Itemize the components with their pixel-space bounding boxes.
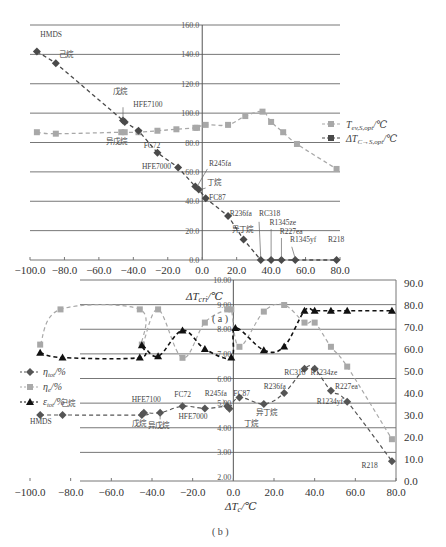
x-tick-label: −80.0 xyxy=(58,486,84,498)
diamond-marker-icon xyxy=(52,59,60,67)
x-axis-title-b: ΔTc/℃ xyxy=(224,500,257,514)
square-marker-icon xyxy=(27,384,33,390)
square-marker-icon xyxy=(194,125,200,131)
point-label: R236fa xyxy=(264,382,287,391)
point-label: R236fa xyxy=(230,209,253,218)
point-label: HFE7100 xyxy=(132,395,161,404)
x-tick-label: 80.0 xyxy=(386,486,406,498)
square-marker-icon xyxy=(53,131,59,137)
square-marker-icon xyxy=(302,320,308,326)
point-label: HFE7000 xyxy=(178,412,207,421)
caption-b: ( b ) xyxy=(212,526,229,538)
x-tick-label: −20.0 xyxy=(155,264,181,276)
diamond-marker-icon xyxy=(260,400,268,408)
square-marker-icon xyxy=(268,119,274,125)
point-label: 戊烷 xyxy=(132,418,147,428)
point-label: 异丁烷 xyxy=(232,224,254,234)
point-label: R218 xyxy=(328,235,345,244)
diamond-marker-icon xyxy=(333,256,341,264)
svg-text:ηe/%: ηe/% xyxy=(43,381,62,393)
triangle-marker-icon xyxy=(260,346,268,353)
x-tick-label: −80.0 xyxy=(52,264,78,276)
svg-text:ηtot/%: ηtot/% xyxy=(43,366,66,378)
square-marker-icon xyxy=(389,436,395,442)
right-y-tick-label: 50.0 xyxy=(404,365,424,377)
triangle-marker-icon xyxy=(231,324,239,331)
chart-b: 2.003.004.005.006.007.008.009.0010.000.0… xyxy=(15,276,424,498)
square-marker-icon xyxy=(180,355,186,361)
square-marker-icon xyxy=(344,364,350,370)
square-marker-icon xyxy=(280,129,286,135)
point-label: HMDS xyxy=(40,30,62,39)
point-label: HMDS xyxy=(30,417,52,426)
x-tick-label: 20.0 xyxy=(264,486,284,498)
legend-b-item-eta-tot: ηtot/% xyxy=(20,366,66,378)
x-tick-label: −20.0 xyxy=(180,486,206,498)
svg-text:ΔTC→S,opt/℃: ΔTC→S,opt/℃ xyxy=(345,133,397,146)
point-label: R1345yf xyxy=(290,235,317,244)
x-tick-label: −60.0 xyxy=(99,486,125,498)
diamond-marker-icon xyxy=(26,368,34,376)
right-y-tick-label: 70.0 xyxy=(404,321,424,333)
y-tick-label: 140.0 xyxy=(181,50,199,59)
square-marker-icon xyxy=(202,320,208,326)
y-tick-label: 40.0 xyxy=(185,197,199,206)
square-marker-icon xyxy=(122,129,128,135)
point-label: R218 xyxy=(361,461,378,470)
y-tick-label: 20.0 xyxy=(185,227,199,236)
series-line xyxy=(40,304,392,439)
square-marker-icon xyxy=(203,122,209,128)
point-label: HFE7000 xyxy=(142,162,171,171)
y-tick-label: 120.0 xyxy=(181,80,199,89)
diamond-marker-icon xyxy=(59,411,67,419)
square-marker-icon xyxy=(137,306,143,312)
point-label: 异丁烷 xyxy=(256,407,278,417)
left-y-tick-label: 10.00 xyxy=(213,276,231,285)
right-y-tick-label: 90.0 xyxy=(404,277,424,289)
x-tick-label: −40.0 xyxy=(121,264,147,276)
chart-a: 0.020.040.060.080.0100.0120.0140.0160.0−… xyxy=(15,21,351,276)
figure-canvas: 0.020.040.060.080.0100.0120.0140.0160.0−… xyxy=(0,0,446,547)
right-y-tick-label: 30.0 xyxy=(404,409,424,421)
point-label: R227ea xyxy=(280,227,304,236)
square-marker-icon xyxy=(225,122,231,128)
triangle-marker-icon xyxy=(301,307,309,314)
square-marker-icon xyxy=(312,320,318,326)
point-label: 异戊烷 xyxy=(148,420,170,430)
square-marker-icon xyxy=(58,306,64,312)
square-marker-icon xyxy=(236,344,242,350)
left-y-tick-label: 2.00 xyxy=(217,473,231,482)
right-y-tick-label: 40.0 xyxy=(404,387,424,399)
y-tick-label: 160.0 xyxy=(181,21,199,30)
x-tick-label: −100.0 xyxy=(15,486,46,498)
legend-a-item-tev: Tev,S,opt/℃ xyxy=(322,119,387,132)
diamond-marker-icon xyxy=(174,163,182,171)
right-y-tick-label: 0.0 xyxy=(404,475,418,487)
point-label: HFE7100 xyxy=(133,100,162,109)
square-marker-icon xyxy=(154,128,160,134)
y-tick-label: 100.0 xyxy=(181,109,199,118)
left-y-tick-label: 6.00 xyxy=(217,375,231,384)
x-axis-title-a: ΔTcri/℃ xyxy=(185,290,224,304)
point-label: R1234ze xyxy=(311,368,338,377)
x-tick-label: 0.0 xyxy=(226,486,240,498)
x-tick-label: 40.0 xyxy=(261,264,281,276)
right-y-tick-label: 80.0 xyxy=(404,299,424,311)
x-tick-label: −60.0 xyxy=(86,264,112,276)
triangle-marker-icon xyxy=(59,354,67,361)
diamond-marker-icon xyxy=(240,235,248,243)
caption-a: ( a ) xyxy=(212,313,228,325)
legend-b: ηtot/% ηe/% εtot/% xyxy=(20,366,66,408)
x-tick-label: 40.0 xyxy=(305,486,325,498)
right-y-tick-label: 60.0 xyxy=(404,343,424,355)
diamond-marker-icon xyxy=(327,387,335,395)
x-tick-label: 0.0 xyxy=(195,264,209,276)
square-marker-icon xyxy=(328,344,334,350)
point-label: FC87 xyxy=(233,389,250,398)
right-y-tick-label: 10.0 xyxy=(404,453,424,465)
legend-b-item-eps: εtot/% xyxy=(20,396,65,408)
point-label: 丁烷 xyxy=(207,177,222,187)
point-label: R1345ze xyxy=(269,218,296,227)
legend-a: Tev,S,opt/℃ ΔTC→S,opt/℃ xyxy=(322,119,397,146)
triangle-marker-icon xyxy=(136,354,144,361)
